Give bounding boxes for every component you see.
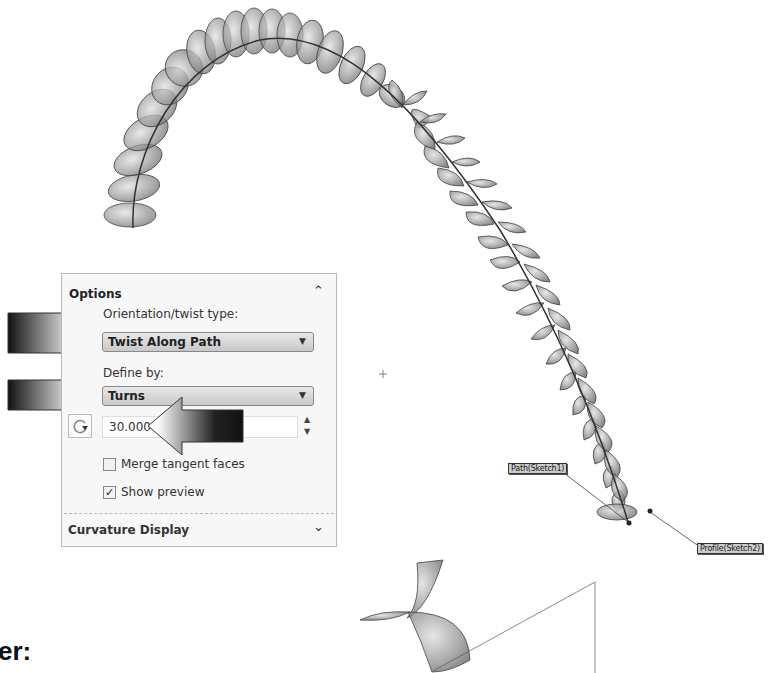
options-title: Options xyxy=(69,287,122,301)
caption-text: er: xyxy=(0,636,31,667)
origin-marker xyxy=(379,370,387,378)
checkmark-icon: ✓ xyxy=(105,486,114,499)
chevron-up-icon[interactable]: ⌃ xyxy=(313,283,324,298)
path-sketch-tag[interactable]: Path(Sketch1) xyxy=(508,463,567,474)
reverse-direction-button[interactable] xyxy=(68,414,92,438)
spin-up-icon[interactable]: ▲ xyxy=(300,414,314,426)
orientation-twist-type-label: Orientation/twist type: xyxy=(103,307,238,321)
chevron-down-icon: ▼ xyxy=(299,336,306,346)
profile-sketch-tag[interactable]: Profile(Sketch2) xyxy=(697,543,763,554)
chevron-down-icon[interactable]: ⌄ xyxy=(313,519,324,534)
merge-tangent-faces-label: Merge tangent faces xyxy=(121,457,245,471)
define-by-label: Define by: xyxy=(103,366,164,380)
orientation-twist-type-value: Twist Along Path xyxy=(108,335,221,349)
orientation-twist-type-dropdown[interactable]: Twist Along Path ▼ xyxy=(102,332,314,352)
reverse-direction-icon xyxy=(69,415,91,437)
callout-arrow-turns xyxy=(140,395,250,457)
chevron-down-icon: ▼ xyxy=(299,390,306,400)
detail-inset xyxy=(360,560,470,672)
curvature-display-header[interactable]: Curvature Display xyxy=(68,523,189,537)
show-preview-label: Show preview xyxy=(121,485,205,499)
merge-tangent-faces-checkbox[interactable] xyxy=(103,458,116,471)
spin-down-icon[interactable]: ▼ xyxy=(300,426,314,438)
turns-spinner[interactable]: ▲ ▼ xyxy=(300,414,314,440)
section-divider xyxy=(64,513,334,514)
show-preview-checkbox[interactable]: ✓ xyxy=(103,486,116,499)
